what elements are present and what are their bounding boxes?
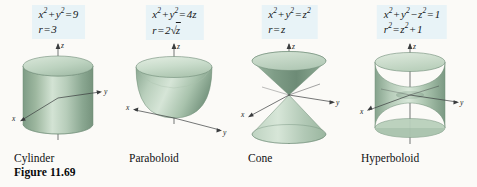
panel-caption-cylinder: Cylinder — [0, 152, 54, 164]
figure-panel-cone: x2+y2=z2 r=z — [232, 0, 347, 187]
svg-text:y: y — [335, 98, 340, 107]
equation-cylindrical-hyperboloid: r2=z2+1 — [384, 22, 440, 37]
equation-box-cylinder: x2+y2=9 r=3 — [32, 5, 86, 39]
panel-caption-paraboloid: Paraboloid — [117, 152, 179, 164]
equation-cartesian-paraboloid: x2+y2=4z — [152, 7, 196, 22]
equation-cylindrical-paraboloid: r=2√z — [152, 22, 196, 38]
svg-text:y: y — [103, 87, 108, 96]
equation-box-hyperboloid: x2+y2−z2=1 r2=z2+1 — [377, 5, 447, 39]
svg-text:y: y — [459, 98, 464, 107]
figure-container: x2+y2=9 r=3 — [0, 0, 477, 187]
figure-number-label: Figure 11.69 — [14, 166, 76, 178]
svg-text:z: z — [291, 42, 295, 51]
svg-text:x: x — [125, 103, 130, 112]
equation-cartesian-hyperboloid: x2+y2−z2=1 — [384, 7, 440, 22]
equation-cartesian-cylinder: x2+y2=9 — [39, 7, 79, 22]
svg-text:x: x — [359, 107, 364, 116]
equation-cylindrical-cylinder: r=3 — [39, 22, 79, 37]
svg-text:z: z — [412, 42, 416, 51]
figure-panel-cylinder: x2+y2=9 r=3 — [0, 0, 117, 187]
svg-text:z: z — [60, 41, 64, 50]
svg-text:z: z — [176, 42, 180, 51]
equation-box-cone: x2+y2=z2 r=z — [261, 5, 318, 39]
panel-caption-cone: Cone — [232, 152, 272, 164]
surface-drawing-cone: z y x — [232, 40, 347, 150]
surface-drawing-hyperboloid: z y x — [347, 40, 477, 150]
equation-cartesian-cone: x2+y2=z2 — [268, 7, 311, 22]
equation-cylindrical-cone: r=z — [268, 22, 311, 37]
surface-drawing-cylinder: z y x — [0, 40, 117, 150]
figure-panel-paraboloid: x2+y2=4z r=2√z — [117, 0, 232, 187]
svg-text:x: x — [240, 110, 245, 119]
surface-drawing-paraboloid: z y x — [117, 40, 232, 150]
panel-caption-hyperboloid: Hyperboloid — [347, 152, 419, 164]
svg-text:x: x — [11, 114, 16, 123]
figure-panel-hyperboloid: x2+y2−z2=1 r2=z2+1 — [347, 0, 477, 187]
svg-text:y: y — [222, 128, 227, 137]
equation-box-paraboloid: x2+y2=4z r=2√z — [145, 5, 203, 40]
